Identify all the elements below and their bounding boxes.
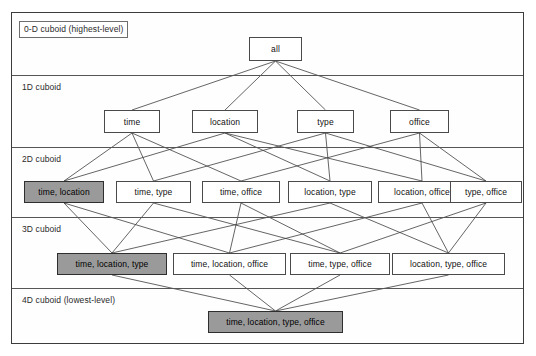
level-4d-label: 4D cuboid (lowest-level) [22, 295, 115, 305]
band-divider-3 [12, 288, 523, 289]
cuboid-node-type[interactable]: type [297, 110, 354, 133]
cuboid-node-type-office[interactable]: type, office [450, 181, 522, 203]
cuboid-node-location-type-office[interactable]: location, type, office [392, 253, 505, 275]
level-0d-label: 0-D cuboid (highest-level) [19, 21, 128, 38]
band-divider-1 [12, 147, 523, 148]
cuboid-node-location[interactable]: location [192, 110, 258, 133]
cuboid-node-time-location-type-office[interactable]: time, location, type, office [208, 311, 343, 333]
cuboid-node-time-office[interactable]: time, office [202, 181, 280, 203]
lattice-diagram-canvas: 0-D cuboid (highest-level)1D cuboid2D cu… [0, 0, 536, 356]
band-divider-2 [12, 217, 523, 218]
cuboid-node-time-type-office[interactable]: time, type, office [290, 253, 390, 275]
cuboid-node-office[interactable]: office [390, 110, 449, 133]
cuboid-node-all[interactable]: all [249, 37, 302, 61]
level-2d-label: 2D cuboid [22, 154, 61, 164]
cuboid-node-location-type[interactable]: location, type [288, 181, 372, 203]
cuboid-node-time-location[interactable]: time, location [24, 181, 104, 203]
level-3d-label: 3D cuboid [22, 224, 61, 234]
band-divider-0 [12, 75, 523, 76]
level-1d-label: 1D cuboid [22, 82, 61, 92]
cuboid-node-time-type[interactable]: time, type [116, 181, 191, 203]
cuboid-node-time[interactable]: time [104, 110, 160, 133]
cuboid-node-time-location-office[interactable]: time, location, office [173, 253, 286, 275]
cuboid-node-time-location-type[interactable]: time, location, type [57, 253, 167, 275]
